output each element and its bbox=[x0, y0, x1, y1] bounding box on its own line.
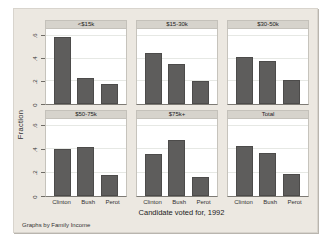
y-tick-label: .4 bbox=[30, 54, 40, 64]
panel-row-bottom: 0 .2 .4 .6 $50-75k $75k+ bbox=[14, 110, 317, 197]
bar-clinton bbox=[236, 146, 253, 196]
plot-area bbox=[227, 119, 309, 197]
bar-perot bbox=[101, 84, 118, 104]
bar-perot bbox=[283, 80, 300, 104]
x-category-group: Clinton Bush Perot bbox=[227, 199, 309, 205]
bar-group bbox=[228, 29, 308, 104]
bar-bush bbox=[168, 64, 185, 104]
panel-under-15k: <$15k bbox=[45, 20, 127, 105]
bar-bush bbox=[168, 140, 185, 196]
bar-group bbox=[46, 29, 126, 104]
x-axis-title: Candidate voted for, 1992 bbox=[14, 208, 318, 217]
x-tick-label-perot: Perot bbox=[105, 199, 119, 205]
bar-bush bbox=[259, 153, 276, 196]
plot-area bbox=[45, 119, 127, 197]
panel-title: Total bbox=[227, 110, 309, 119]
y-tick-label: 0 bbox=[30, 192, 40, 202]
bar-group bbox=[46, 119, 126, 196]
bar-bush bbox=[259, 61, 276, 104]
bar-perot bbox=[192, 177, 209, 196]
plot-area bbox=[227, 29, 309, 105]
y-axis-bottom-row: 0 .2 .4 .6 bbox=[26, 119, 45, 197]
panel-total: Total bbox=[227, 110, 309, 197]
by-graph-note: Graphs by Family Income bbox=[22, 222, 90, 228]
panel-title: $75k+ bbox=[136, 110, 218, 119]
y-tick-label: .2 bbox=[30, 168, 40, 178]
y-axis-top-row: 0 .2 .4 .6 bbox=[26, 29, 45, 105]
x-tick-label-perot: Perot bbox=[287, 199, 301, 205]
bar-bush bbox=[77, 78, 94, 104]
bar-group bbox=[137, 119, 217, 196]
y-tick-label: .6 bbox=[30, 31, 40, 41]
bar-clinton bbox=[145, 53, 162, 104]
panel-15-30k: $15-30k bbox=[136, 20, 218, 105]
bar-clinton bbox=[54, 149, 71, 196]
panel-30-50k: $30-50k bbox=[227, 20, 309, 105]
panel-title: $50-75k bbox=[45, 110, 127, 119]
plot-area bbox=[136, 119, 218, 197]
panel-title: $30-50k bbox=[227, 20, 309, 29]
x-category-group: Clinton Bush Perot bbox=[45, 199, 127, 205]
bar-clinton bbox=[145, 154, 162, 196]
panel-title: <$15k bbox=[45, 20, 127, 29]
panel-50-75k: $50-75k bbox=[45, 110, 127, 197]
x-tick-label-bush: Bush bbox=[172, 199, 186, 205]
bar-perot bbox=[192, 81, 209, 104]
bar-clinton bbox=[54, 37, 71, 104]
bar-perot bbox=[283, 174, 300, 196]
panel-title: $15-30k bbox=[136, 20, 218, 29]
panel-row-top: 0 .2 .4 .6 <$15k $15-30k bbox=[14, 20, 317, 105]
x-tick-label-clinton: Clinton bbox=[52, 199, 71, 205]
bar-group bbox=[137, 29, 217, 104]
plot-area bbox=[136, 29, 218, 105]
stata-bar-graph-figure: Fraction 0 .2 .4 .6 <$15k bbox=[13, 8, 318, 233]
plot-area bbox=[45, 29, 127, 105]
bar-bush bbox=[77, 147, 94, 196]
y-tick-label: .2 bbox=[30, 77, 40, 87]
y-tick-label: .6 bbox=[30, 121, 40, 131]
x-category-group: Clinton Bush Perot bbox=[136, 199, 218, 205]
x-tick-label-perot: Perot bbox=[196, 199, 210, 205]
bar-group bbox=[228, 119, 308, 196]
x-tick-label-clinton: Clinton bbox=[234, 199, 253, 205]
y-tick-label: 0 bbox=[30, 100, 40, 110]
panel-75k-plus: $75k+ bbox=[136, 110, 218, 197]
x-category-labels: Clinton Bush Perot Clinton Bush Perot Cl… bbox=[14, 199, 317, 205]
bar-perot bbox=[101, 175, 118, 196]
x-tick-label-bush: Bush bbox=[263, 199, 277, 205]
x-tick-label-bush: Bush bbox=[81, 199, 95, 205]
bar-clinton bbox=[236, 57, 253, 104]
x-tick-label-clinton: Clinton bbox=[143, 199, 162, 205]
y-tick-label: .4 bbox=[30, 145, 40, 155]
